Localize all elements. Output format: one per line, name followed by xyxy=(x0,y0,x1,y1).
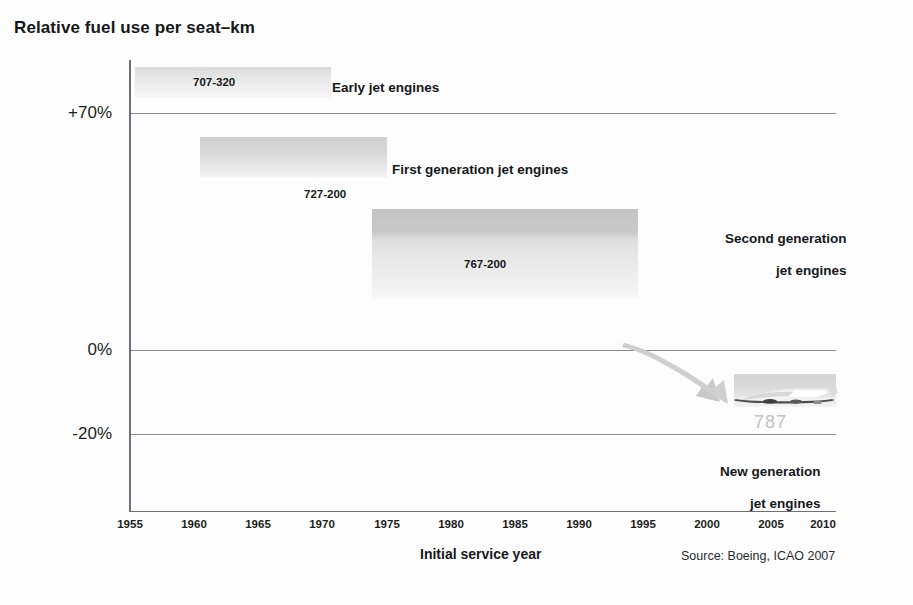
x-tick-label-1955: 1955 xyxy=(117,518,143,530)
annotation-second-generation: Second generation jet engines xyxy=(725,215,847,295)
787-model-label: 787 xyxy=(754,412,787,433)
x-tick-label-1960: 1960 xyxy=(181,518,207,530)
annotation-new-generation-line1: New generation xyxy=(720,464,821,480)
band-label-707-320: 707-320 xyxy=(193,76,235,88)
x-tick-label-1995: 1995 xyxy=(630,518,656,530)
annotation-second-generation-line1: Second generation xyxy=(725,231,847,247)
x-tick-label-2000: 2000 xyxy=(694,518,720,530)
x-tick-label-1985: 1985 xyxy=(502,518,528,530)
annotation-first-generation: First generation jet engines xyxy=(392,162,568,178)
annotation-second-generation-line2: jet engines xyxy=(725,263,847,279)
787-aircraft-image xyxy=(734,374,836,407)
band-767-200 xyxy=(372,209,638,298)
gridline-70-percent xyxy=(129,113,836,114)
airplane-icon xyxy=(718,372,844,412)
y-tick-label-minus20: -20% xyxy=(0,424,112,444)
x-tick-label-1975: 1975 xyxy=(374,518,400,530)
x-tick-label-1980: 1980 xyxy=(438,518,464,530)
x-axis-title: Initial service year xyxy=(420,546,541,562)
y-axis-line xyxy=(129,60,131,512)
gridline-minus-20-percent xyxy=(129,434,836,435)
annotation-early-jet-engines: Early jet engines xyxy=(332,80,439,96)
x-tick-label-1990: 1990 xyxy=(566,518,592,530)
band-label-727-200: 727-200 xyxy=(304,188,346,200)
y-tick-label-0: 0% xyxy=(0,340,112,360)
band-727-200 xyxy=(200,137,387,178)
x-tick-label-1970: 1970 xyxy=(309,518,335,530)
annotation-new-generation-line2: jet engines xyxy=(720,496,821,512)
source-note: Source: Boeing, ICAO 2007 xyxy=(681,549,835,563)
band-label-767-200: 767-200 xyxy=(464,258,506,270)
x-tick-label-1965: 1965 xyxy=(245,518,271,530)
fuel-efficiency-chart: Relative fuel use per seat–km +70% 0% -2… xyxy=(0,0,913,605)
y-tick-label-70: +70% xyxy=(0,103,112,123)
annotation-new-generation: New generation jet engines xyxy=(720,448,821,528)
page-title: Relative fuel use per seat–km xyxy=(14,18,255,38)
